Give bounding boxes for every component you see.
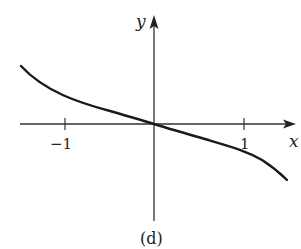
y-axis-label: y xyxy=(135,11,146,31)
x-axis-label: x xyxy=(289,131,299,151)
tick-label-minus-1: −1 xyxy=(50,135,72,153)
figure-caption: (d) xyxy=(140,229,163,248)
tick-label-1: 1 xyxy=(240,135,250,153)
function-graph: −1 1 x y (d) xyxy=(0,0,301,249)
